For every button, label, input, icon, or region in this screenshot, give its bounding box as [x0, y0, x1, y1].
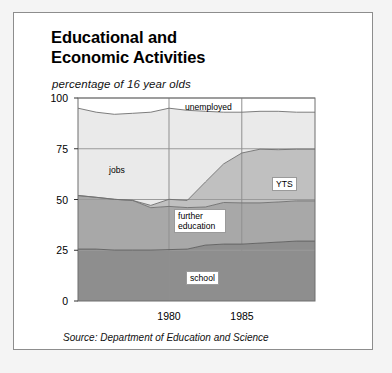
y-tick-label-75: 75: [42, 143, 68, 155]
source-note: Source: Department of Education and Scie…: [63, 332, 269, 343]
area-label-school: school: [186, 271, 219, 285]
screenshot-root: Educational and Economic Activities perc…: [0, 0, 392, 373]
y-tick-label-50: 50: [42, 194, 68, 206]
area-label-yts: YTS: [272, 177, 297, 191]
area-label-further-education: further education: [174, 209, 226, 233]
stacked-area-chart: 100 75 50 25 0 1980 1985 unemployed jobs…: [14, 13, 374, 351]
y-tick-label-0: 0: [42, 295, 68, 307]
x-tick-label-1980: 1980: [149, 310, 189, 322]
y-tick-label-100: 100: [42, 92, 68, 104]
area-label-unemployed: unemployed: [182, 101, 235, 113]
x-tick-label-1985: 1985: [222, 310, 262, 322]
area-label-jobs: jobs: [106, 164, 128, 176]
chart-card: Educational and Economic Activities perc…: [13, 12, 373, 350]
chart-plot-svg: [14, 13, 374, 351]
area-label-further-education-line2: education: [178, 221, 215, 231]
y-tick-label-25: 25: [42, 244, 68, 256]
area-label-further-education-line1: further: [178, 211, 203, 221]
